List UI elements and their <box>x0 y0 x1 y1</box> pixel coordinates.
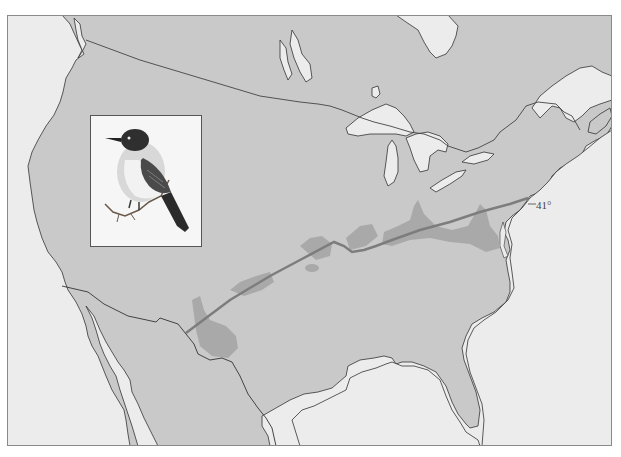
bird-illustration-inset <box>90 115 202 247</box>
latitude-label: 41° <box>536 199 551 211</box>
bird-icon <box>91 116 201 246</box>
